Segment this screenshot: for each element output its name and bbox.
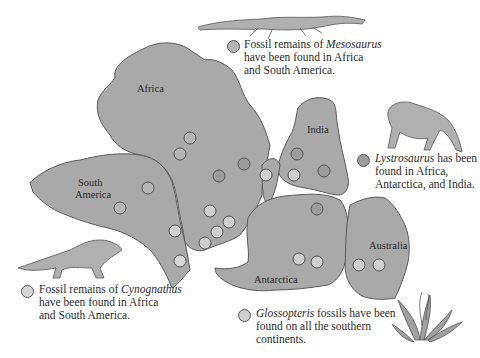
south-america-label-line2: America [75,189,111,200]
glossopteris-dot [204,205,216,217]
india-landmass [278,98,348,195]
genus-name: Glossopteris [256,307,314,319]
caption-text: Fossil remains of [39,283,121,295]
glossopteris-dot [169,225,181,237]
south-america-label-line1: South [78,177,103,188]
lystrosaurus-dot [238,158,250,170]
glossopteris-plant-illustration [392,292,462,342]
glossopteris-dot [223,216,235,228]
mesosaurus-dot [142,182,154,194]
cynognathus-caption: Fossil remains of Cynognathus have been … [39,283,182,322]
genus-name: Cynognathus [121,283,182,295]
cynognathus-dot [174,255,186,267]
glossopteris-dot [353,259,365,271]
caption-text: and South America. [39,309,130,321]
lystrosaurus-dot [213,170,225,182]
caption-text: Antarctica, and India. [375,178,475,190]
lystrosaurus-illustration [388,102,462,152]
genus-name: Lystrosaurus [375,152,434,164]
mesosaurus-illustration [198,16,365,39]
lystrosaurus-dot [291,148,303,160]
mesosaurus-dot [174,148,186,160]
caption-text: found on all the southern [256,320,371,332]
caption-text: have been found in Africa [244,51,363,63]
australia-label: Australia [369,240,408,251]
caption-text: have been found in Africa [39,296,158,308]
glossopteris-dot [293,253,305,265]
caption-text: continents. [256,333,306,345]
genus-name: Mesosaurus [326,38,382,50]
lystrosaurus-legend-dot [357,154,370,167]
cynognathus-illustration [18,240,122,278]
caption-text: found in Africa, [375,165,448,177]
glossopteris-dot [311,256,323,268]
glossopteris-dot [373,259,385,271]
glossopteris-dot [211,226,223,238]
mesosaurus-dot [184,132,196,144]
mesosaurus-caption: Fossil remains of Mesosaurus have been f… [244,38,382,77]
glossopteris-dot [199,237,211,249]
glossopteris-dot [288,169,300,181]
caption-text: and South America. [244,64,335,76]
mesosaurus-legend-dot [227,40,240,53]
mesosaurus-dot [114,202,126,214]
africa-label: Africa [137,83,164,94]
caption-text: has been [434,152,477,164]
caption-text: Fossil remains of [244,38,326,50]
glossopteris-dot [260,169,272,181]
lystrosaurus-dot [318,165,330,177]
cynognathus-legend-dot [21,285,34,298]
lystrosaurus-caption: Lystrosaurus has been found in Africa, A… [375,152,477,191]
india-label: India [307,124,329,135]
lystrosaurus-dot [311,203,323,215]
antarctica-label: Antarctica [254,274,298,285]
glossopteris-legend-dot [238,309,251,322]
caption-text: fossils have been [314,307,395,319]
glossopteris-caption: Glossopteris fossils have been found on … [256,307,396,346]
